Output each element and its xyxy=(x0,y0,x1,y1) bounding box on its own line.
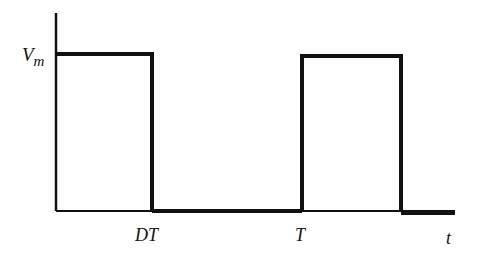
dt-tick-label: DT xyxy=(134,225,160,245)
t-tick-label: T xyxy=(295,225,307,245)
vm-label: Vm xyxy=(22,44,45,69)
square-wave-pulse-2 xyxy=(302,56,401,212)
waveform-diagram: Vm DT T t xyxy=(0,0,481,255)
time-axis-label: t xyxy=(446,228,452,248)
square-wave-pulse-1 xyxy=(56,54,152,211)
